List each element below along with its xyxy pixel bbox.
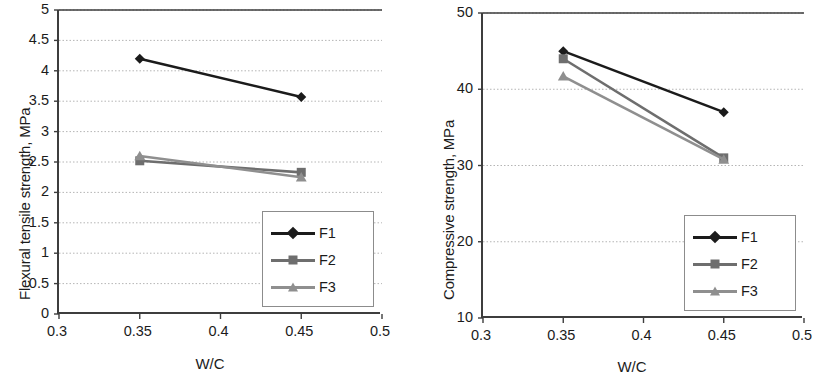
legend-item-f3[interactable]: F3 bbox=[263, 276, 373, 298]
x-axis-tick-label: 0.35 bbox=[531, 327, 591, 343]
triangle-marker-icon bbox=[710, 287, 720, 296]
y-axis-tick-label: 50 bbox=[429, 4, 473, 20]
y-axis-title: Flexural tensile strength, MPa bbox=[16, 108, 33, 300]
x-axis-tick-label: 0.45 bbox=[269, 323, 329, 339]
y-axis-tick-label: 10 bbox=[429, 309, 473, 325]
series-line-f3 bbox=[563, 76, 724, 159]
compressive-strength-chart: 10203040500.30.350.40.450.5Compressive s… bbox=[410, 0, 821, 384]
data-point-f1 bbox=[296, 92, 306, 102]
legend: F1F2F3 bbox=[262, 211, 374, 307]
y-axis-tick-label: 4.5 bbox=[5, 31, 49, 47]
legend: F1F2F3 bbox=[684, 215, 796, 311]
legend-item-f1[interactable]: F1 bbox=[263, 222, 373, 244]
legend-swatch-f3 bbox=[693, 284, 737, 298]
triangle-marker-icon bbox=[288, 283, 298, 292]
x-axis-tick-label: 0.3 bbox=[27, 323, 87, 339]
data-point-f3 bbox=[558, 71, 569, 81]
legend-swatch-f2 bbox=[693, 257, 737, 271]
legend-label: F2 bbox=[319, 252, 336, 268]
data-point-f1 bbox=[719, 107, 729, 117]
diamond-marker-icon bbox=[709, 231, 722, 244]
legend-item-f1[interactable]: F1 bbox=[685, 226, 795, 248]
square-marker-icon bbox=[711, 260, 720, 269]
series-line-f1 bbox=[140, 59, 302, 97]
legend-label: F1 bbox=[319, 225, 336, 241]
legend-swatch-f2 bbox=[271, 253, 315, 267]
y-axis-tick-label: 4 bbox=[5, 62, 49, 78]
series-line-f2 bbox=[563, 59, 724, 158]
legend-label: F1 bbox=[741, 229, 758, 245]
x-axis-tick-label: 0.35 bbox=[108, 323, 168, 339]
x-axis-tick-label: 0.45 bbox=[692, 327, 752, 343]
x-axis-tick-label: 0.3 bbox=[451, 327, 511, 343]
y-axis-tick-label: 0 bbox=[5, 305, 49, 321]
legend-item-f2[interactable]: F2 bbox=[263, 249, 373, 271]
x-axis-tick-label: 0.5 bbox=[350, 323, 410, 339]
flexural-tensile-strength-chart: 00.511.522.533.544.550.30.350.40.450.5Fl… bbox=[0, 0, 410, 384]
legend-swatch-f1 bbox=[271, 226, 315, 240]
series-line-f1 bbox=[563, 51, 724, 112]
x-axis-tick-label: 0.4 bbox=[189, 323, 249, 339]
legend-item-f2[interactable]: F2 bbox=[685, 253, 795, 275]
square-marker-icon bbox=[289, 256, 298, 265]
figure-page: 00.511.522.533.544.550.30.350.40.450.5Fl… bbox=[0, 0, 821, 384]
y-axis-title: Compressive strength, MPa bbox=[440, 120, 457, 300]
series-line-f3 bbox=[140, 156, 302, 177]
legend-label: F2 bbox=[741, 256, 758, 272]
diamond-marker-icon bbox=[287, 227, 300, 240]
x-axis-title: W/C bbox=[592, 358, 672, 375]
x-axis-tick-label: 0.4 bbox=[612, 327, 672, 343]
legend-item-f3[interactable]: F3 bbox=[685, 280, 795, 302]
legend-label: F3 bbox=[741, 283, 758, 299]
y-axis-tick-label: 3.5 bbox=[5, 92, 49, 108]
legend-label: F3 bbox=[319, 279, 336, 295]
x-axis-tick-label: 0.5 bbox=[772, 327, 821, 343]
legend-swatch-f1 bbox=[693, 230, 737, 244]
legend-swatch-f3 bbox=[271, 280, 315, 294]
y-axis-tick-label: 5 bbox=[5, 1, 49, 17]
data-point-f2 bbox=[559, 54, 568, 63]
y-axis-tick-label: 40 bbox=[429, 80, 473, 96]
data-point-f1 bbox=[135, 54, 145, 64]
x-axis-title: W/C bbox=[170, 355, 250, 372]
